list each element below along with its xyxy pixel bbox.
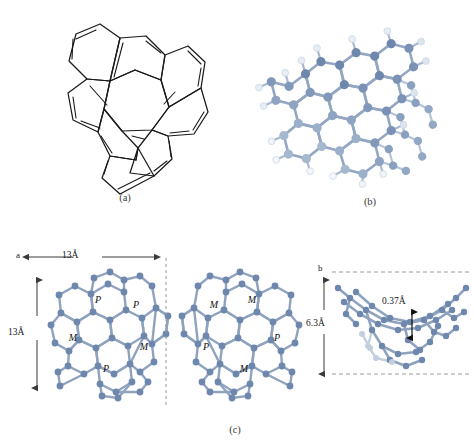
ring-label-m-3: M — [247, 294, 257, 305]
ring-label-m-5: M — [239, 363, 249, 374]
ring-label-p-2: P — [132, 299, 139, 310]
width-dimension-label: 13Å — [62, 250, 78, 260]
panel-b-ball-and-stick — [255, 8, 445, 188]
height-dimension-arrow — [30, 268, 44, 398]
axis-label-b: b — [318, 263, 323, 273]
ring-label-m-1: M — [68, 332, 78, 343]
panel-a-skeletal-structure — [60, 8, 210, 188]
ring-label-p-5: P — [202, 341, 209, 352]
ring-label-m-2: M — [139, 341, 149, 352]
axis-label-a: a — [16, 250, 20, 260]
enantiomer-divider — [162, 258, 170, 406]
ring-label-p-4: P — [273, 332, 280, 343]
thickness-dimension-arrow — [318, 276, 330, 380]
caption-c: (c) — [205, 424, 265, 435]
offset-dimension-label: 0.37Å — [382, 296, 406, 306]
ring-label-m-4: M — [209, 299, 219, 310]
caption-a: (a) — [95, 192, 155, 203]
ring-label-p-1: P — [94, 294, 101, 305]
panel-c-middle-enantiomer: M M P P M — [182, 262, 302, 402]
thickness-dimension-label: 6.3Å — [306, 318, 325, 328]
figure-root: (a) — [0, 0, 474, 447]
panel-c-left-enantiomer: P P M M P — [48, 262, 168, 402]
caption-b: (b) — [340, 196, 400, 207]
panel-c-side-view — [316, 262, 474, 392]
height-dimension-label: 13Å — [8, 327, 24, 337]
ring-label-p-3: P — [102, 363, 109, 374]
